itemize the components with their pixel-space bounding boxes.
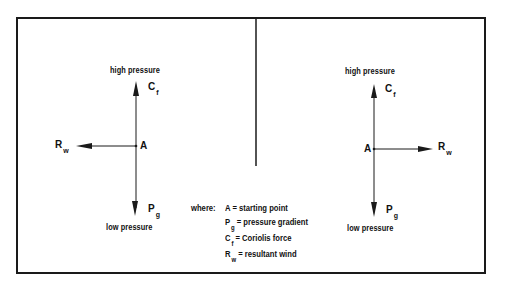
legend-symbol: R — [225, 249, 231, 259]
legend-definition: = starting point — [232, 203, 287, 213]
right-rw-arrowhead — [418, 146, 433, 152]
right-pg-arrowhead — [371, 202, 377, 217]
right-pg-label: Pg — [386, 205, 398, 215]
left-rw-symbol: R — [55, 139, 62, 150]
left-cf-symbol: C — [148, 81, 155, 92]
legend-subscript: g — [231, 224, 235, 231]
left-pg-label: Pg — [148, 204, 160, 214]
legend-symbol: C — [225, 233, 231, 243]
right-rw-label: Rw — [438, 142, 452, 152]
vector-diagram — [0, 0, 505, 291]
left-point-a-label: A — [140, 141, 147, 151]
left-vector-group — [76, 81, 139, 216]
right-point-a — [373, 148, 376, 151]
left-low-pressure-label: low pressure — [106, 223, 153, 232]
right-point-a-label: A — [364, 144, 371, 154]
right-pg-symbol: P — [386, 204, 393, 215]
right-rw-subscript: w — [446, 149, 451, 156]
legend-symbol: P — [225, 217, 230, 227]
legend-definition: = resultant wind — [238, 249, 296, 259]
legend-definition: = Coriolis force — [236, 233, 292, 243]
left-rw-arrowhead — [76, 143, 92, 149]
right-cf-label: Cf — [385, 84, 396, 94]
left-pg-symbol: P — [148, 203, 155, 214]
left-point-a — [135, 145, 138, 148]
right-cf-symbol: C — [385, 83, 392, 94]
legend-intro: where: — [191, 203, 216, 213]
right-low-pressure-label: low pressure — [347, 224, 394, 233]
left-pg-arrowhead — [132, 201, 138, 216]
right-high-pressure-label: high pressure — [345, 67, 395, 76]
left-rw-subscript: w — [63, 147, 68, 154]
legend-item-cf: Cf = Coriolis force — [225, 233, 291, 243]
legend-subscript: f — [231, 240, 233, 247]
right-cf-arrowhead — [371, 84, 377, 98]
left-cf-arrowhead — [133, 81, 139, 96]
left-rw-label: Rw — [55, 140, 69, 150]
left-cf-label: Cf — [148, 82, 159, 92]
left-pg-subscript: g — [156, 211, 160, 218]
right-pg-subscript: g — [394, 212, 398, 219]
legend-item-pg: Pg = pressure gradient — [225, 217, 308, 227]
right-rw-symbol: R — [438, 141, 445, 152]
legend-item-rw: Rw = resultant wind — [225, 249, 297, 259]
right-vector-group — [371, 84, 433, 217]
legend-definition: = pressure gradient — [237, 217, 308, 227]
right-cf-subscript: f — [393, 91, 395, 98]
legend-subscript: w — [231, 256, 236, 263]
legend-item-a: A = starting point — [225, 203, 288, 213]
left-high-pressure-label: high pressure — [110, 66, 160, 75]
legend-symbol: A — [225, 203, 230, 213]
left-cf-subscript: f — [156, 89, 158, 96]
